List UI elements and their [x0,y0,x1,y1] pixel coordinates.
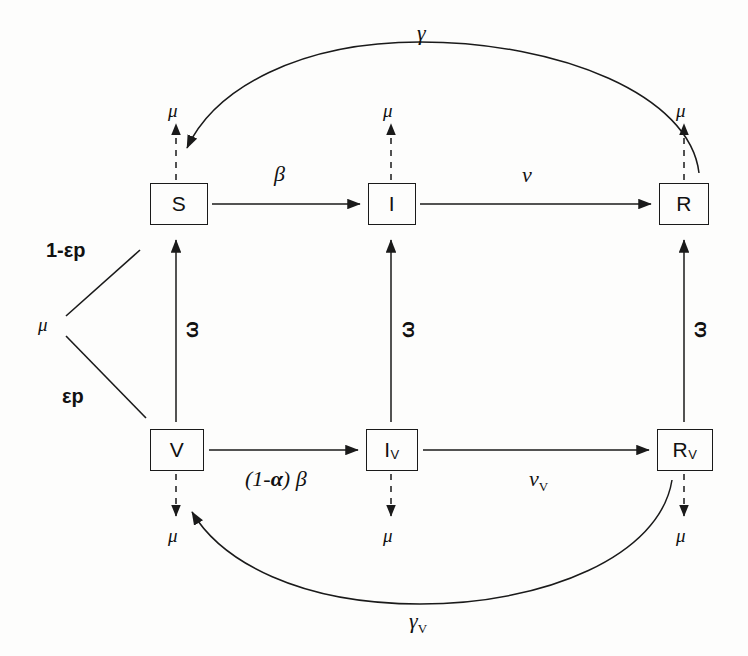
node-infected-vaccinated-sub: V [391,447,400,462]
label-recovery-nu-top: ν [522,162,532,188]
label-death-mu-r: μ [676,100,686,122]
node-recovered-vaccinated-sub: V [688,447,697,462]
label-death-mu-rv: μ [676,525,686,547]
label-branch-vaccinated: εp [62,385,84,408]
label-omega-s-v: ω [180,321,203,338]
label-infection-beta-bottom: (1-α) β [245,466,307,492]
label-death-mu-iv: μ [383,525,393,547]
diagram-edges-layer [0,0,748,656]
node-susceptible-label: S [172,192,187,216]
node-infected: I [368,183,416,225]
label-waning-gamma-top: γ [417,20,426,46]
node-infected-vaccinated: IV [366,429,418,471]
node-recovered: R [659,183,709,225]
label-death-mu-v: μ [168,525,178,547]
label-omega-i-iv: ω [396,321,419,338]
node-vaccinated: V [150,429,204,471]
label-death-mu-s: μ [168,100,178,122]
node-vaccinated-label: V [170,438,185,462]
node-recovered-vaccinated: RV [657,429,713,471]
label-infection-beta-top: β [274,161,285,187]
label-waning-gamma-bottom: γV [409,608,427,634]
node-recovered-vaccinated-label: R [673,438,689,462]
label-birth-mu: μ [38,314,48,336]
label-recovery-nu-bottom: νV [529,466,548,492]
label-branch-unvaccinated: 1-εp [46,239,86,262]
node-susceptible: S [150,183,208,225]
diagram-canvas: S I R V IV RV μ 1-εp εp β ν (1-α) β νV γ… [0,0,748,656]
label-death-mu-i: μ [383,100,393,122]
edge-r-to-s-gamma [187,42,699,173]
label-omega-r-rv: ω [688,321,711,338]
node-recovered-label: R [676,192,692,216]
edge-rv-to-v-gammav [192,480,672,604]
node-infected-label: I [389,192,395,216]
